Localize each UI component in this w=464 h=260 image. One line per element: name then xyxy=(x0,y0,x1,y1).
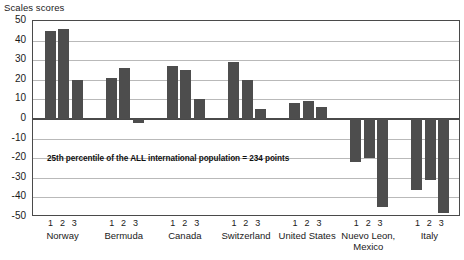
bar xyxy=(119,68,130,119)
x-axis-series-numbers: 1 2 3 xyxy=(277,218,338,229)
y-axis-tick-label: -20 xyxy=(12,152,26,162)
percentile-annotation: 25th percentile of the ALL international… xyxy=(47,154,289,163)
x-axis-series-numbers: 1 2 3 xyxy=(399,218,460,229)
bar xyxy=(106,78,117,119)
x-axis-series-numbers: 1 2 3 xyxy=(215,218,276,229)
bar xyxy=(350,119,361,162)
bar xyxy=(438,119,449,213)
bar xyxy=(133,119,144,123)
x-axis-group: 1 2 3Nuevo Leon,Mexico xyxy=(338,218,399,252)
bar xyxy=(242,80,253,119)
x-axis-category-label: Norway xyxy=(32,230,93,241)
x-axis-category-label: Switzerland xyxy=(215,230,276,241)
x-axis-series-numbers: 1 2 3 xyxy=(338,218,399,229)
bar xyxy=(364,119,375,158)
chart-axis-title: Scales scores xyxy=(4,2,64,13)
bar xyxy=(425,119,436,180)
bar xyxy=(377,119,388,207)
y-axis-tick-label: -10 xyxy=(12,133,26,143)
y-axis-tick-label: 10 xyxy=(15,93,26,103)
y-axis-tick-label: 0 xyxy=(20,113,26,123)
x-axis-group: 1 2 3Canada xyxy=(154,218,215,241)
y-axis-tick-label: -40 xyxy=(12,191,26,201)
y-axis-tick-label: -50 xyxy=(12,211,26,221)
x-axis-category-labels: 1 2 3Norway1 2 3Bermuda1 2 3Canada1 2 3S… xyxy=(32,218,460,260)
bar xyxy=(45,31,56,119)
x-axis-category-label: Canada xyxy=(154,230,215,241)
x-axis-group: 1 2 3Italy xyxy=(399,218,460,241)
bar xyxy=(180,70,191,119)
bar xyxy=(228,62,239,119)
scales-scores-bar-chart: Scales scores 50403020100-10-20-30-40-50… xyxy=(0,0,464,260)
x-axis-group: 1 2 3Switzerland xyxy=(215,218,276,241)
x-axis-category-label: Mexico xyxy=(338,241,399,252)
x-axis-category-label: Bermuda xyxy=(93,230,154,241)
bar xyxy=(289,103,300,119)
x-axis-series-numbers: 1 2 3 xyxy=(32,218,93,229)
y-axis-tick-labels: 50403020100-10-20-30-40-50 xyxy=(0,20,30,216)
x-axis-category-label: Nuevo Leon, xyxy=(338,230,399,241)
bar xyxy=(167,66,178,119)
bar xyxy=(316,107,327,119)
y-axis-tick-label: -30 xyxy=(12,172,26,182)
x-axis-category-label: United States xyxy=(277,230,338,241)
x-axis-group: 1 2 3Bermuda xyxy=(93,218,154,241)
y-axis-tick-label: 20 xyxy=(15,74,26,84)
y-axis-tick-label: 40 xyxy=(15,35,26,45)
bar xyxy=(303,101,314,119)
bar-series-container xyxy=(33,21,459,215)
x-axis-category-label: Italy xyxy=(399,230,460,241)
x-axis-group: 1 2 3United States xyxy=(277,218,338,241)
x-axis-group: 1 2 3Norway xyxy=(32,218,93,241)
bar xyxy=(194,99,205,119)
bar xyxy=(72,80,83,119)
bar xyxy=(411,119,422,190)
y-axis-tick-label: 50 xyxy=(15,15,26,25)
y-axis-tick-label: 30 xyxy=(15,54,26,64)
x-axis-series-numbers: 1 2 3 xyxy=(154,218,215,229)
x-axis-series-numbers: 1 2 3 xyxy=(93,218,154,229)
bar xyxy=(255,109,266,119)
plot-area: 25th percentile of the ALL international… xyxy=(32,20,460,216)
bar xyxy=(58,29,69,119)
